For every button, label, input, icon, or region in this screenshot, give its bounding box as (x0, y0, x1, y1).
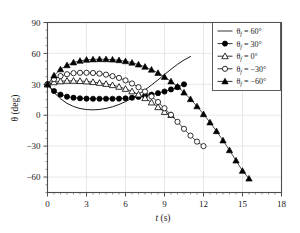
legend-label: θf = 0° (237, 52, 258, 62)
marker-open-circle (64, 72, 69, 77)
marker-filled-circle (181, 82, 186, 87)
marker-open-circle (222, 66, 227, 71)
marker-open-circle (181, 126, 186, 131)
marker-filled-circle (110, 96, 115, 101)
chart-legend: θf = 60°θf = 30°θf = 0°θf = −30°θf = −60… (213, 23, 281, 91)
marker-filled-circle (71, 95, 76, 100)
x-tick-label: 0 (45, 199, 50, 209)
y-tick-label: −60 (26, 172, 41, 182)
marker-filled-circle (168, 87, 173, 92)
marker-filled-circle (222, 41, 227, 46)
marker-filled-circle (103, 96, 108, 101)
x-tick-label: 9 (162, 199, 167, 209)
marker-filled-circle (58, 92, 63, 97)
marker-open-circle (149, 94, 154, 99)
marker-open-circle (58, 73, 63, 78)
marker-open-circle (142, 89, 147, 94)
marker-open-circle (188, 133, 193, 138)
svg-text:t (s): t (s) (155, 213, 170, 224)
marker-filled-circle (90, 96, 95, 101)
marker-open-circle (97, 71, 102, 76)
marker-open-circle (123, 78, 128, 83)
x-tick-label: 3 (84, 199, 89, 209)
marker-filled-circle (97, 96, 102, 101)
marker-open-circle (162, 106, 167, 111)
marker-open-circle (77, 70, 82, 75)
marker-open-circle (84, 70, 89, 75)
marker-filled-circle (116, 96, 121, 101)
marker-open-circle (168, 112, 173, 117)
legend-label: θf = 60° (237, 27, 262, 37)
marker-filled-circle (64, 94, 69, 99)
x-axis-title: t (s) (155, 213, 170, 224)
chart-svg: 0369121518 9060300−30−60 t (s) θ (deg) θ… (0, 0, 300, 233)
marker-open-circle (155, 99, 160, 104)
x-tick-label: 12 (199, 199, 208, 209)
marker-filled-circle (123, 96, 128, 101)
marker-open-circle (201, 144, 206, 149)
y-tick-label: 60 (32, 49, 42, 59)
marker-open-circle (90, 70, 95, 75)
chart-figure: 0369121518 9060300−30−60 t (s) θ (deg) θ… (0, 0, 300, 233)
marker-open-circle (136, 85, 141, 90)
marker-filled-circle (129, 95, 134, 100)
marker-open-circle (71, 71, 76, 76)
marker-open-circle (110, 73, 115, 78)
marker-open-circle (194, 139, 199, 144)
x-tick-label: 6 (123, 199, 128, 209)
marker-filled-circle (155, 91, 160, 96)
marker-filled-circle (84, 96, 89, 101)
svg-text:θ (deg): θ (deg) (10, 95, 21, 122)
marker-filled-circle (51, 88, 56, 93)
marker-open-circle (175, 119, 180, 124)
marker-open-circle (103, 72, 108, 77)
x-tick-label: 15 (238, 199, 248, 209)
y-tick-label: 90 (32, 18, 42, 28)
y-tick-label: −30 (26, 141, 41, 151)
x-tick-label: 18 (277, 199, 287, 209)
marker-open-circle (129, 81, 134, 86)
y-tick-label: 0 (36, 110, 41, 120)
marker-open-circle (116, 75, 121, 80)
y-tick-label: 30 (32, 80, 42, 90)
marker-filled-circle (162, 89, 167, 94)
legend-label: θf = 30° (237, 40, 262, 50)
y-axis-title: θ (deg) (10, 95, 21, 122)
marker-filled-circle (77, 96, 82, 101)
